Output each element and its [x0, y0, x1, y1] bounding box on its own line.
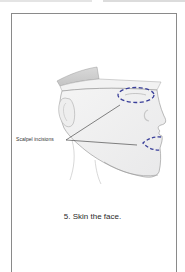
- face-outline: [60, 88, 166, 177]
- scalp-flap: [57, 67, 161, 91]
- figure-caption: 5. Skin the face.: [0, 212, 185, 221]
- incision-label: Scalpel incisions: [16, 136, 54, 142]
- face-illustration: [0, 0, 185, 200]
- page: Scalpel incisions 5. Skin the face.: [0, 0, 185, 272]
- ear: [59, 98, 75, 127]
